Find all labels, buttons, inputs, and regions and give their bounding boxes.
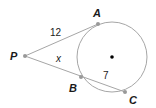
point-a <box>96 22 100 26</box>
label-p: P <box>10 50 18 62</box>
length-bc: 7 <box>103 70 109 81</box>
point-b <box>79 75 83 79</box>
point-c <box>123 90 127 94</box>
geometry-diagram: P A B C 12 x 7 <box>0 0 156 108</box>
label-c: C <box>129 94 138 106</box>
length-pb: x <box>55 53 62 64</box>
point-p <box>23 54 27 58</box>
label-b: B <box>69 82 77 94</box>
center-point <box>110 55 114 59</box>
label-a: A <box>92 7 101 19</box>
tangent-segment-pa <box>25 24 98 56</box>
length-pa: 12 <box>50 27 62 38</box>
